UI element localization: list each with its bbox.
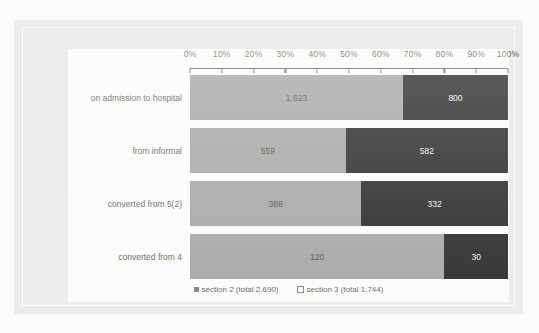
bar-segment-section-2: 1,623 — [190, 75, 403, 120]
bar-segment-section-2: 120 — [190, 234, 444, 279]
x-axis-tick — [285, 68, 286, 73]
x-axis-tick-label: 20% — [245, 49, 263, 59]
x-axis-tick-label: 10% — [213, 49, 231, 59]
cut-off-caption — [18, 0, 268, 9]
x-axis-tick — [476, 68, 477, 73]
x-axis-tick-label: 30% — [277, 49, 295, 59]
x-axis-tick — [221, 68, 222, 73]
x-axis-tick — [317, 68, 318, 73]
x-axis-tick-label: 70% — [404, 49, 422, 59]
x-axis-tick — [412, 68, 413, 73]
bar-row: from informal559582 — [68, 128, 509, 173]
bar-track: converted from 5(2)388332 — [190, 181, 508, 226]
x-axis-tick-label: 90% — [467, 49, 485, 59]
chart-plot-area: 0%10%20%30%40%50%60%70%80%90%100% on adm… — [68, 49, 509, 302]
x-axis-tick — [348, 68, 349, 73]
x-axis-tick — [189, 68, 190, 73]
bar-segment-section-3: 800 — [403, 75, 508, 120]
bar-category-label: converted from 5(2) — [108, 199, 182, 209]
legend-label: section 2 (total 2,690) — [202, 285, 279, 294]
legend-swatch-icon — [194, 287, 199, 292]
bar-segment-section-2: 388 — [190, 181, 361, 226]
x-axis-tick — [380, 68, 381, 73]
x-axis-tick — [507, 68, 508, 73]
x-axis-tick — [444, 68, 445, 73]
legend-swatch-icon — [297, 286, 304, 293]
x-axis-tick-label: 100% — [497, 49, 520, 59]
x-axis-tick — [253, 68, 254, 73]
x-axis-tick-label: 50% — [340, 49, 358, 59]
chart-legend: section 2 (total 2,690)section 3 (total … — [68, 285, 509, 294]
bar-track: on admission to hospital1,623800 — [190, 75, 508, 120]
bar-segment-section-2: 559 — [190, 128, 346, 173]
bar-segment-section-3: 332 — [361, 181, 508, 226]
legend-item: section 3 (total 1,744) — [297, 285, 384, 294]
x-axis-tick-label: 40% — [308, 49, 326, 59]
bar-row: converted from 5(2)388332 — [68, 181, 509, 226]
x-axis-tick-label: 0% — [184, 49, 197, 59]
x-axis-tick-labels: 0%10%20%30%40%50%60%70%80%90%100% — [68, 49, 509, 65]
bar-category-label: converted from 4 — [118, 252, 182, 262]
bar-category-label: on admission to hospital — [91, 93, 182, 103]
bar-row: converted from 412030 — [68, 234, 509, 279]
bar-track: from informal559582 — [190, 128, 508, 173]
bar-category-label: from informal — [132, 146, 182, 156]
bar-track: converted from 412030 — [190, 234, 508, 279]
bar-segment-section-3: 582 — [346, 128, 508, 173]
x-axis-tick-label: 80% — [436, 49, 454, 59]
bar-segment-section-3: 30 — [444, 234, 508, 279]
figure-frame: 0%10%20%30%40%50%60%70%80%90%100% on adm… — [14, 20, 523, 314]
legend-label: section 3 (total 1,744) — [307, 285, 384, 294]
bars-area: on admission to hospital1,623800from inf… — [68, 75, 509, 271]
legend-item: section 2 (total 2,690) — [194, 285, 279, 294]
bar-row: on admission to hospital1,623800 — [68, 75, 509, 120]
x-axis-tick-label: 60% — [372, 49, 390, 59]
